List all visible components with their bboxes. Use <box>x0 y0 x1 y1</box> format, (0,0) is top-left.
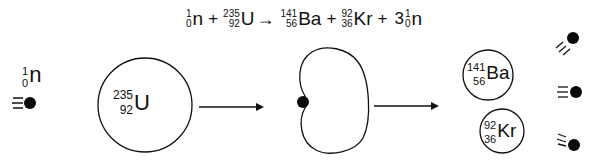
incoming-neutron-label: 10 n <box>22 66 41 89</box>
fission-equation: 10 n + 23592 U → 14156 Ba + 9236 Kr + 3 … <box>186 6 422 32</box>
atomic-number: 36 <box>484 134 496 145</box>
plus-sign: + <box>326 9 336 29</box>
reaction-arrow: → <box>257 9 275 30</box>
emitted-neutron-icon <box>556 32 579 55</box>
uranium-label: 23592 U <box>113 89 150 116</box>
mass-number: 141 <box>467 62 485 73</box>
equation-barium-product: 14156 Ba <box>281 8 322 30</box>
element-symbol: n <box>411 8 422 30</box>
arrow-right-icon <box>199 103 264 111</box>
emitted-neutron-icon <box>557 134 580 151</box>
element-symbol: Ba <box>298 8 321 30</box>
arrow-right-icon <box>374 102 439 110</box>
element-symbol: U <box>241 8 255 30</box>
mass-number: 92 <box>484 120 496 131</box>
equation-neutron-reactant: 10 n <box>186 8 203 30</box>
mass-number: 235 <box>113 89 133 101</box>
element-symbol: n <box>193 8 204 30</box>
equation-uranium-reactant: 23592 U <box>223 8 254 30</box>
deformed-nucleus-shape <box>300 48 369 153</box>
equation-neutron-product: 10 n <box>405 8 422 30</box>
equation-krypton-product: 9236 Kr <box>341 8 372 30</box>
atomic-number: 92 <box>229 19 240 29</box>
element-symbol: Kr <box>354 8 373 30</box>
atomic-number: 0 <box>22 78 28 89</box>
element-symbol: U <box>134 90 150 116</box>
mass-number: 1 <box>22 66 28 77</box>
atomic-number: 56 <box>286 19 297 29</box>
plus-sign: + <box>378 9 388 29</box>
krypton-label: 9236 Kr <box>484 120 516 145</box>
atomic-number: 92 <box>120 104 133 116</box>
atomic-number: 0 <box>405 19 411 29</box>
absorbed-neutron-icon <box>297 96 309 108</box>
element-symbol: n <box>29 62 41 88</box>
incoming-neutron-icon <box>12 97 36 109</box>
neutron-coefficient: 3 <box>394 9 403 29</box>
barium-label: 14156 Ba <box>467 62 510 87</box>
atomic-number: 36 <box>341 19 352 29</box>
element-symbol: Ba <box>486 62 509 84</box>
emitted-neutron-icon <box>557 86 582 98</box>
atomic-number: 56 <box>473 76 485 87</box>
plus-sign: + <box>208 9 218 29</box>
atomic-number: 0 <box>186 19 192 29</box>
element-symbol: Kr <box>497 120 516 142</box>
